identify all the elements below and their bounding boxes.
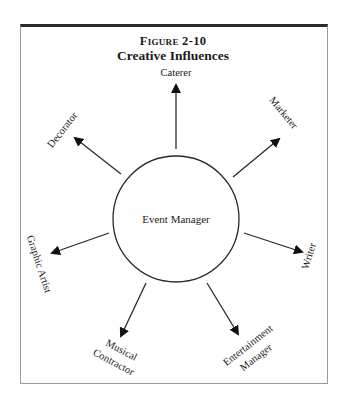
diagram-canvas: Event Manager Caterer Marketer Writer En… bbox=[0, 0, 346, 402]
node-caterer: Caterer bbox=[161, 67, 192, 78]
node-graphic-artist: Graphic Artist bbox=[25, 234, 54, 294]
arrow-musical-contractor bbox=[121, 283, 146, 336]
node-decorator: Decorator bbox=[45, 110, 80, 150]
node-marketer: Marketer bbox=[267, 94, 300, 131]
arrow-marketer bbox=[233, 139, 279, 177]
arrow-entertainment-manager bbox=[207, 283, 238, 334]
node-writer: Writer bbox=[299, 241, 318, 270]
arrow-graphic-artist bbox=[52, 233, 109, 253]
center-label: Event Manager bbox=[142, 213, 210, 225]
arrow-decorator bbox=[75, 138, 121, 174]
arrow-writer bbox=[244, 233, 302, 252]
